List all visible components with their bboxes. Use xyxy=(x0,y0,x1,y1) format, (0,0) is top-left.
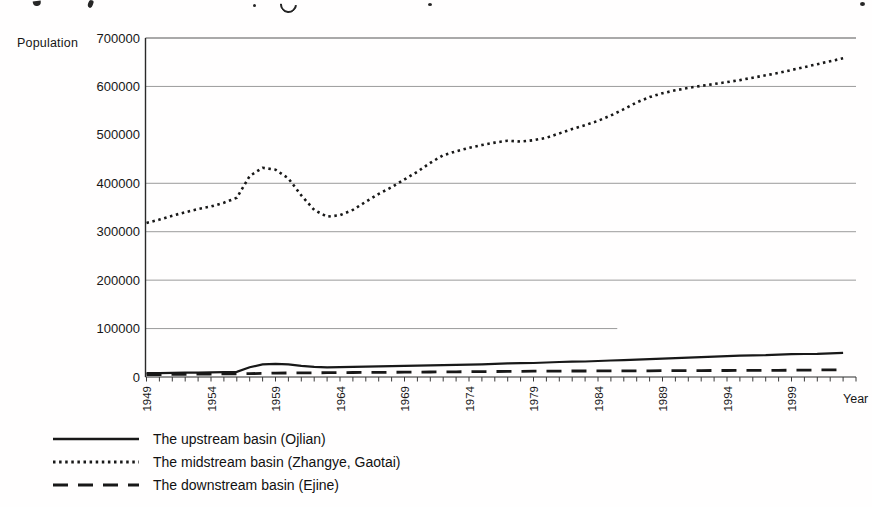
x-tick-label-1949: 1949 xyxy=(141,386,153,412)
x-tick-label-1964: 1964 xyxy=(335,385,347,411)
legend-line-sample-dashed xyxy=(53,481,139,489)
y-tick-label-0: 0 xyxy=(133,370,140,385)
legend-label: The downstream basin (Ejine) xyxy=(153,477,339,493)
series-line-midstream-basin xyxy=(147,58,844,223)
x-tick-label-1969: 1969 xyxy=(399,386,411,412)
legend-label: The upstream basin (Ojlian) xyxy=(153,431,326,447)
x-tick-label-1979: 1979 xyxy=(528,386,540,412)
legend-line-sample-solid xyxy=(53,435,139,443)
x-tick-label-1984: 1984 xyxy=(593,385,605,411)
y-tick-label-100000: 100000 xyxy=(97,321,140,336)
x-tick-label-1954: 1954 xyxy=(206,385,218,411)
y-tick-label-500000: 500000 xyxy=(97,127,140,142)
legend-item-upstream-basin: The upstream basin (Ojlian) xyxy=(53,429,400,448)
legend-item-downstream-basin: The downstream basin (Ejine) xyxy=(53,475,400,494)
legend-item-midstream-basin: The midstream basin (Zhangye, Gaotai) xyxy=(53,452,400,471)
y-tick-label-600000: 600000 xyxy=(97,79,140,94)
legend: The upstream basin (Ojlian)The midstream… xyxy=(53,429,400,494)
x-tick-label-1999: 1999 xyxy=(786,386,798,412)
legend-line-sample-dotted xyxy=(53,458,139,466)
y-tick-label-200000: 200000 xyxy=(97,273,140,288)
x-tick-label-1974: 1974 xyxy=(464,385,476,411)
series-line-upstream-basin xyxy=(147,353,844,373)
legend-label: The midstream basin (Zhangye, Gaotai) xyxy=(153,454,400,470)
series-line-downstream-basin xyxy=(147,370,844,375)
scanned-figure-page: Population 01000002000003000004000005000… xyxy=(0,0,872,507)
x-tick-label-1989: 1989 xyxy=(657,386,669,412)
y-tick-label-700000: 700000 xyxy=(97,31,140,46)
x-tick-label-1959: 1959 xyxy=(270,386,282,412)
x-axis-title: Year xyxy=(843,392,868,406)
y-tick-label-300000: 300000 xyxy=(97,224,140,239)
y-tick-label-400000: 400000 xyxy=(97,176,140,191)
x-tick-label-1994: 1994 xyxy=(722,385,734,411)
